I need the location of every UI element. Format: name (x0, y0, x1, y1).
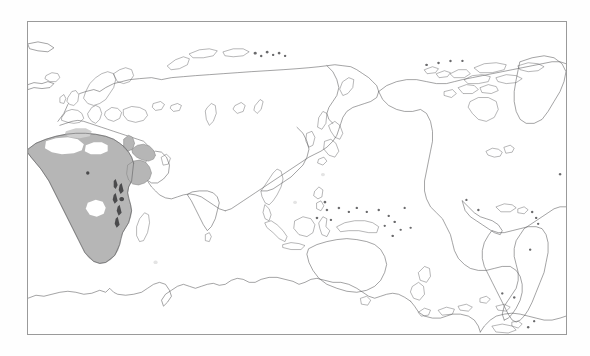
island-madagascar (137, 213, 150, 242)
figure-root (0, 0, 590, 356)
range-polygon-africa (28, 133, 135, 263)
distribution-range-africa (28, 128, 156, 263)
landmass-oceania (153, 173, 430, 305)
range-polygon-arabia (132, 144, 156, 161)
world-map (28, 22, 566, 334)
landmass-americas (379, 56, 566, 329)
rift-mark-6 (119, 197, 124, 201)
landmass-antarctica (28, 277, 566, 333)
rift-mark-dot (86, 171, 89, 174)
range-polygon-redsea-corridor (124, 135, 135, 151)
map-frame (27, 21, 567, 335)
